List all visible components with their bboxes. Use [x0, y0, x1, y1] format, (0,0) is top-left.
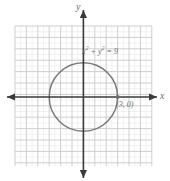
- point-label-3-0: (3, 0): [116, 100, 133, 109]
- point-marker-3-0: [116, 95, 120, 99]
- equation-y-exponent: 2: [102, 45, 105, 51]
- y-axis-arrow-up: [80, 10, 87, 18]
- x-axis-arrow-right: [149, 93, 157, 100]
- equation-plus: +: [91, 47, 96, 56]
- equation-x-exponent: 2: [86, 45, 89, 51]
- x-axis-arrow-left: [7, 93, 15, 100]
- y-axis-label: y: [76, 1, 80, 12]
- x-axis-label: x: [160, 90, 164, 101]
- equation-equals-value: = 9: [107, 47, 118, 56]
- equation-annotation: x2 + y2 = 9: [82, 47, 118, 56]
- y-axis-arrow-down: [80, 170, 87, 178]
- graph-figure: y x x2 + y2 = 9 (3, 0): [0, 0, 170, 181]
- coordinate-plane-svg: [0, 0, 170, 181]
